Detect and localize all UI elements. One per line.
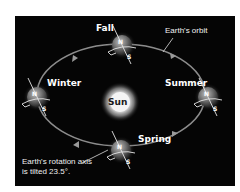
orbit-arrow-icon — [172, 131, 178, 137]
south-pole-label: S — [213, 105, 217, 112]
orbit-arrow-icon — [170, 53, 176, 59]
north-pole-label: N — [118, 38, 123, 45]
orbit-arrow-icon — [73, 141, 79, 148]
axis-tilt-caption: Earth's rotation axis is tilted 23.5°. — [22, 157, 112, 177]
orbit-arrow-icon — [72, 55, 78, 62]
season-label-spring: Spring — [138, 135, 171, 144]
south-pole-label: S — [42, 105, 46, 112]
orbit-label: Earth's orbit — [165, 27, 207, 35]
south-pole-label: S — [127, 53, 131, 60]
orbit-leader-line — [163, 38, 173, 52]
caption-line-1: Earth's rotation axis — [22, 157, 112, 167]
season-label-fall: Fall — [96, 24, 114, 33]
north-pole-label: N — [32, 90, 37, 97]
south-pole-label: S — [126, 158, 130, 165]
season-label-summer: Summer — [165, 79, 207, 88]
sun-label: Sun — [108, 97, 127, 107]
north-pole-label: N — [117, 143, 122, 150]
caption-line-2: is tilted 23.5°. — [22, 167, 112, 177]
north-pole-label: N — [204, 90, 209, 97]
season-label-winter: Winter — [47, 79, 81, 88]
